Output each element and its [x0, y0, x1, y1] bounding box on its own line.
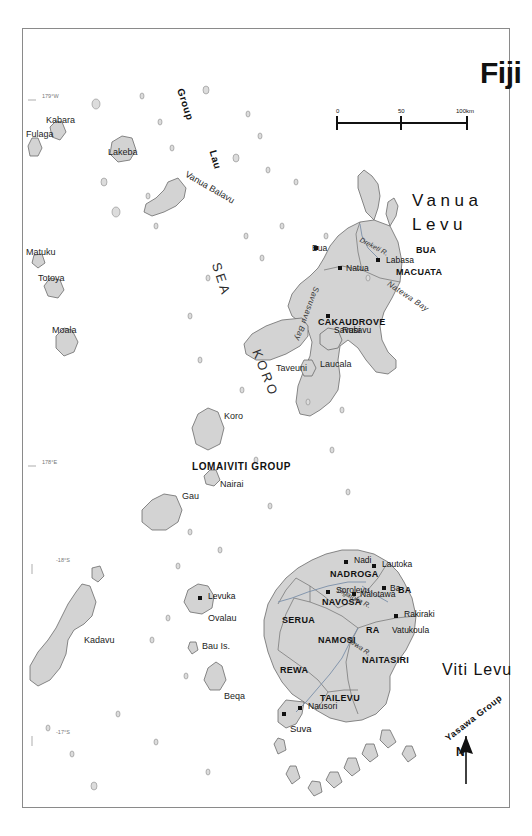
scalebar-label-100km: 100km	[456, 108, 474, 114]
map-frame: KORO SEA Vanua Levu Viti Levu Lau Group …	[22, 28, 510, 808]
graticule-ticks	[24, 30, 508, 806]
scalebar-label-0: 0	[336, 108, 339, 114]
scalebar-tick-100	[466, 116, 468, 130]
map-canvas-rotated: KORO SEA Vanua Levu Viti Levu Lau Group …	[24, 30, 508, 806]
scalebar-tick-0	[336, 116, 338, 130]
north-arrow-icon	[450, 732, 484, 792]
scalebar-bar	[336, 122, 468, 124]
scalebar-tick-50	[400, 116, 402, 130]
north-arrow-label: N	[456, 746, 465, 758]
scalebar-label-50: 50	[398, 108, 405, 114]
label-layer: KORO SEA Vanua Levu Viti Levu Lau Group …	[24, 30, 508, 806]
map-title: Fiji	[480, 56, 521, 90]
map-page: KORO SEA Vanua Levu Viti Levu Lau Group …	[0, 0, 532, 836]
